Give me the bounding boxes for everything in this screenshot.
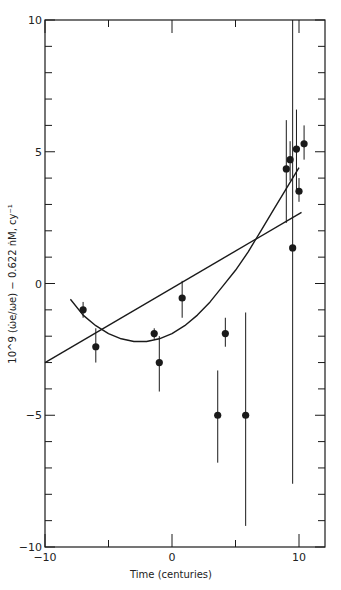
data-point bbox=[293, 146, 300, 153]
x-tick-label: −10 bbox=[33, 551, 56, 564]
data-point bbox=[242, 412, 249, 419]
x-tick-label: 10 bbox=[292, 551, 306, 564]
plot-border bbox=[45, 20, 325, 547]
data-point bbox=[283, 165, 290, 172]
data-point bbox=[289, 244, 296, 251]
data-point bbox=[300, 140, 307, 147]
x-tick-label: 0 bbox=[169, 551, 176, 564]
y-axis-title: 10^9 (ω̇e/ωe) − 0.622 ṅM, cy⁻¹ bbox=[7, 204, 18, 363]
plot-frame bbox=[45, 20, 325, 547]
x-tick-labels: −10010 bbox=[33, 551, 306, 564]
chart: 0510−10−5 −10010 Time (centuries) 10^9 (… bbox=[0, 0, 341, 590]
data-points bbox=[80, 20, 308, 526]
data-point bbox=[222, 330, 229, 337]
data-point bbox=[156, 359, 163, 366]
y-tick-label: 0 bbox=[35, 278, 42, 291]
y-tick-label: 5 bbox=[35, 146, 42, 159]
quadratic-fit-curve bbox=[70, 168, 299, 342]
data-point bbox=[151, 330, 158, 337]
data-point bbox=[80, 306, 87, 313]
x-axis-title: Time (centuries) bbox=[129, 569, 212, 580]
data-point bbox=[92, 343, 99, 350]
y-tick-label: 10 bbox=[28, 14, 42, 27]
data-point bbox=[179, 294, 186, 301]
axis-ticks bbox=[45, 20, 325, 547]
data-point bbox=[295, 188, 302, 195]
y-tick-labels: 0510−10−5 bbox=[19, 14, 42, 554]
y-tick-label: −5 bbox=[26, 409, 42, 422]
fit-lines bbox=[45, 168, 302, 363]
linear-fit-line bbox=[45, 212, 302, 362]
data-point bbox=[214, 412, 221, 419]
